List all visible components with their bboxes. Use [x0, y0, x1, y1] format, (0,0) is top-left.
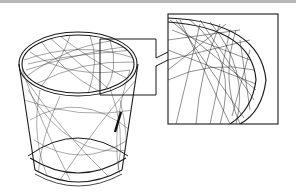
glass-base-inner-back: [28, 138, 128, 156]
scratched-glass-illustration: [0, 0, 296, 196]
glass: [19, 32, 138, 186]
inset-box-top: [100, 39, 168, 58]
glass-base-front: [30, 158, 126, 173]
glass-rim-inner: [22, 35, 134, 93]
glass-rim-outer: [19, 32, 137, 96]
magnified-detail: [168, 14, 278, 124]
